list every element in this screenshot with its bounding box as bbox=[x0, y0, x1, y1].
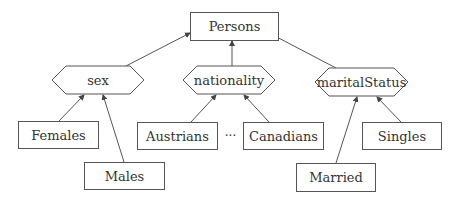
node-married-label: Married bbox=[296, 163, 376, 192]
edge-canadians-nationality bbox=[244, 95, 269, 122]
node-males-label: Males bbox=[84, 162, 165, 190]
edge-sex-persons bbox=[126, 33, 190, 66]
edge-singles-maritalstatus bbox=[377, 97, 401, 122]
node-nationality-label: nationality bbox=[183, 66, 275, 94]
node-sex-label: sex bbox=[52, 66, 144, 94]
edge-married-maritalstatus bbox=[336, 97, 357, 163]
ellipsis-separator: ··· bbox=[218, 122, 243, 150]
node-maritalstatus-label: maritalStatus bbox=[315, 68, 408, 96]
edge-males-sex bbox=[103, 95, 124, 162]
node-canadians-label: Canadians bbox=[243, 122, 324, 150]
edge-austrians-nationality bbox=[191, 95, 216, 122]
node-persons-label: Persons bbox=[190, 12, 279, 41]
edge-females-sex bbox=[59, 95, 84, 121]
node-austrians-label: Austrians bbox=[137, 122, 218, 150]
node-females-label: Females bbox=[18, 121, 99, 149]
node-singles-label: Singles bbox=[362, 122, 442, 150]
edge-maritalstatus-persons bbox=[271, 34, 336, 68]
